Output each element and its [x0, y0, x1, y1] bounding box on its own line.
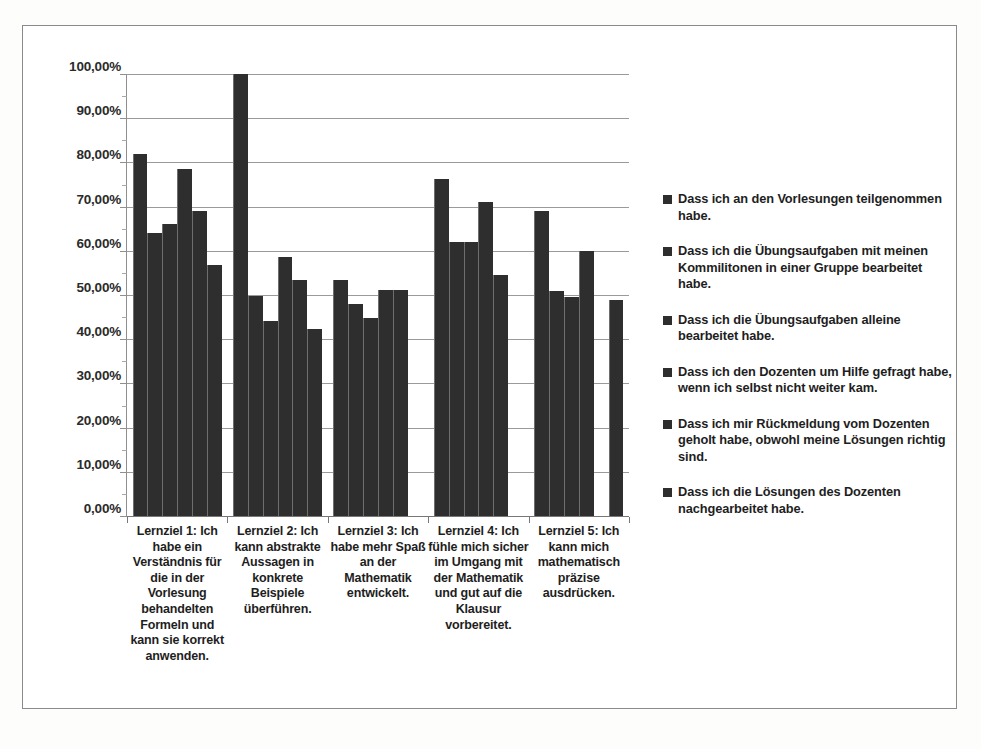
bar-c5-s3[interactable]	[564, 297, 579, 516]
x-cat-label-3: Lernziel 3: Ich habe mehr Spaß an der Ma…	[328, 524, 428, 602]
legend-swatch-icon-5	[663, 488, 672, 497]
bar-c4-s3[interactable]	[464, 242, 479, 516]
legend-item-4[interactable]: Dass ich mir Rückmeldung vom Dozenten ge…	[663, 416, 953, 466]
x-cat-label-1: Lernziel 1: Ich habe ein Verständnis für…	[127, 524, 227, 664]
bar-c1-s2[interactable]	[147, 233, 162, 516]
y-tick-mark-0	[120, 516, 127, 517]
bar-group-1	[133, 74, 222, 516]
legend-item-0[interactable]: Dass ich an den Vorlesungen teilgenommen…	[663, 191, 953, 224]
x-tick-mark-2	[328, 517, 329, 523]
legend-swatch-icon-3	[663, 368, 672, 377]
chart-frame: 0,00% 10,00% 20,00% 30,00% 40,00% 50,00%…	[22, 25, 957, 709]
x-axis-line	[127, 516, 629, 517]
y-tick-mark-60	[120, 251, 127, 252]
legend-item-1[interactable]: Dass ich die Übungsaufgaben mit meinen K…	[663, 243, 953, 293]
bar-c1-s1[interactable]	[133, 154, 148, 516]
x-cat-label-2: Lernziel 2: Ich kann abstrakte Aussagen …	[227, 524, 327, 618]
bar-c1-s5[interactable]	[192, 211, 207, 516]
bar-c3-s1[interactable]	[333, 280, 348, 516]
bar-c5-s6[interactable]	[609, 300, 624, 516]
y-tick-label-80: 80,00%	[33, 147, 121, 162]
bar-c5-s2[interactable]	[549, 291, 564, 516]
x-tick-mark-0	[127, 517, 128, 523]
bar-c2-s6[interactable]	[307, 329, 322, 516]
bar-c2-s4[interactable]	[278, 257, 293, 516]
bar-c4-s2[interactable]	[449, 242, 464, 516]
x-cat-label-5: Lernziel 5: Ich kann mich mathematisch p…	[529, 524, 629, 602]
bar-c4-s5[interactable]	[493, 275, 508, 516]
bar-c3-s2[interactable]	[348, 304, 363, 516]
y-tick-label-20: 20,00%	[33, 412, 121, 427]
y-tick-label-70: 70,00%	[33, 191, 121, 206]
bar-c4-s4[interactable]	[478, 202, 493, 516]
bar-group-3	[333, 74, 422, 516]
y-tick-mark-80	[120, 162, 127, 163]
legend-label-4: Dass ich mir Rückmeldung vom Dozenten ge…	[678, 416, 953, 466]
bar-c3-s5[interactable]	[393, 290, 408, 516]
legend-item-2[interactable]: Dass ich die Übungsaufgaben alleine bear…	[663, 312, 953, 345]
legend-label-5: Dass ich die Lösungen des Dozenten nachg…	[678, 484, 953, 517]
x-tick-mark-3	[428, 517, 429, 523]
y-tick-mark-70	[120, 207, 127, 208]
legend-swatch-icon-0	[663, 195, 672, 204]
legend-swatch-icon-2	[663, 316, 672, 325]
legend-label-0: Dass ich an den Vorlesungen teilgenommen…	[678, 191, 953, 224]
x-tick-mark-1	[227, 517, 228, 523]
legend-swatch-icon-1	[663, 247, 672, 256]
y-tick-mark-20	[120, 428, 127, 429]
y-tick-label-90: 90,00%	[33, 103, 121, 118]
legend-label-1: Dass ich die Übungsaufgaben mit meinen K…	[678, 243, 953, 293]
bar-group-4	[434, 74, 523, 516]
legend-label-2: Dass ich die Übungsaufgaben alleine bear…	[678, 312, 953, 345]
y-tick-label-40: 40,00%	[33, 324, 121, 339]
y-tick-mark-30	[120, 383, 127, 384]
bar-c1-s3[interactable]	[162, 224, 177, 516]
bar-c3-s4[interactable]	[378, 290, 393, 516]
bar-c2-s2[interactable]	[248, 296, 263, 516]
legend-label-3: Dass ich den Dozenten um Hilfe gefragt h…	[678, 364, 953, 397]
x-tick-mark-4	[529, 517, 530, 523]
y-tick-label-10: 10,00%	[33, 456, 121, 471]
y-tick-label-100: 100,00%	[33, 59, 121, 74]
y-tick-mark-50	[120, 295, 127, 296]
y-tick-mark-40	[120, 339, 127, 340]
bar-group-5	[534, 74, 623, 516]
x-cat-label-4: Lernziel 4: Ich fühle mich sicher im Umg…	[428, 524, 528, 633]
y-tick-mark-100	[120, 74, 127, 75]
bar-c3-s3[interactable]	[363, 318, 378, 516]
bar-c2-s1[interactable]	[233, 74, 248, 516]
y-tick-label-30: 30,00%	[33, 368, 121, 383]
x-axis-category-labels: Lernziel 1: Ich habe ein Verständnis für…	[127, 524, 629, 710]
bar-c5-s4[interactable]	[579, 251, 594, 516]
bar-c4-s1[interactable]	[434, 179, 449, 516]
legend-item-5[interactable]: Dass ich die Lösungen des Dozenten nachg…	[663, 484, 953, 517]
bar-c2-s5[interactable]	[292, 280, 307, 516]
plot-area-wrapper: 0,00% 10,00% 20,00% 30,00% 40,00% 50,00%…	[23, 26, 643, 710]
y-tick-label-0: 0,00%	[33, 501, 121, 516]
scanned-page: 0,00% 10,00% 20,00% 30,00% 40,00% 50,00%…	[0, 0, 981, 749]
bar-c1-s6[interactable]	[207, 265, 222, 516]
plot	[127, 74, 629, 516]
y-tick-label-60: 60,00%	[33, 235, 121, 250]
y-tick-mark-10	[120, 472, 127, 473]
y-axis-tick-labels: 0,00% 10,00% 20,00% 30,00% 40,00% 50,00%…	[33, 66, 121, 518]
legend-swatch-icon-4	[663, 420, 672, 429]
bar-group-2	[233, 74, 322, 516]
x-tick-mark-5	[629, 517, 630, 523]
bar-c5-s1[interactable]	[534, 211, 549, 516]
y-tick-mark-90	[120, 118, 127, 119]
chart-legend: Dass ich an den Vorlesungen teilgenommen…	[663, 191, 953, 536]
y-tick-label-50: 50,00%	[33, 280, 121, 295]
legend-item-3[interactable]: Dass ich den Dozenten um Hilfe gefragt h…	[663, 364, 953, 397]
bar-c1-s4[interactable]	[177, 169, 192, 516]
bar-c2-s3[interactable]	[263, 321, 278, 516]
